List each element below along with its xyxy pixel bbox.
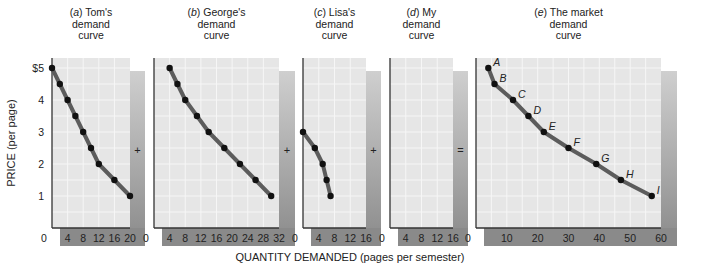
data-point [88,145,94,151]
x-tick: 16 [109,232,121,244]
x-tick: 4 [65,232,71,244]
point-label: F [574,136,581,148]
data-point [111,177,117,183]
chart-canvas: (a) Tom'sdemandcurve048121620+(b) George… [0,0,703,265]
panel-4: (d) Mydemandcurve0481216= [379,6,468,246]
panel-title: (d) My [407,6,438,18]
data-point [182,97,188,103]
x-tick-zero: 0 [379,232,385,244]
x-axis-label: QUANTITY DEMANDED (pages per semester) [235,251,464,263]
data-point [205,129,211,135]
x-tick: 16 [447,232,459,244]
x-tick: 16 [211,232,223,244]
data-point [221,145,227,151]
x-tick: 24 [242,232,254,244]
data-point [127,193,133,199]
panel-title: (c) Lisa's [314,6,356,18]
data-point [252,177,258,183]
data-point [485,65,491,71]
data-point [268,193,274,199]
shade-strip [484,228,677,246]
data-point [319,161,325,167]
shade-bar [366,71,381,246]
panel-1: (a) Tom'sdemandcurve048121620+ [41,6,145,246]
x-tick: 60 [655,232,667,244]
panel-title: (e) The market [534,6,603,18]
x-tick: 8 [182,232,188,244]
data-point [649,193,655,199]
panel-title: curve [556,29,582,41]
data-point [49,65,55,71]
x-tick: 10 [501,232,513,244]
x-tick: 12 [93,232,105,244]
x-tick: 12 [195,232,207,244]
data-point [64,97,70,103]
x-tick-zero: 0 [292,232,298,244]
y-tick: 1 [38,190,44,202]
panel-title: curve [409,29,435,41]
data-point [96,161,102,167]
data-point [72,113,78,119]
x-tick: 16 [360,232,372,244]
data-point [312,145,318,151]
operator-sign: + [370,144,376,156]
panel-3: (c) Lisa'sdemandcurve0481216+ [292,6,381,246]
data-point [541,129,547,135]
shade-bar [453,71,468,246]
data-point [327,193,333,199]
point-label: C [518,88,526,100]
point-label: H [626,168,634,180]
point-label: I [657,184,660,196]
data-point [323,177,329,183]
x-tick-zero: 0 [41,232,47,244]
data-point [166,65,172,71]
panel-title: curve [322,29,348,41]
data-point [237,161,243,167]
operator-sign: + [284,144,290,156]
panel-title: demand [198,18,236,30]
panel-title: demand [316,18,354,30]
x-tick: 32 [273,232,285,244]
point-label: B [500,72,507,84]
data-point [525,113,531,119]
x-tick: 12 [344,232,356,244]
data-point [80,129,86,135]
operator-sign: = [457,144,463,156]
panel-title: curve [78,29,104,41]
panel-title: demand [550,18,588,30]
data-point [565,145,571,151]
operator-sign: + [134,144,140,156]
y-axis-label: PRICE (per page) [5,99,17,186]
y-tick: 4 [38,94,44,106]
x-tick: 8 [419,232,425,244]
y-tick: $5 [32,62,44,74]
x-tick: 4 [403,232,409,244]
data-point [618,177,624,183]
x-tick: 4 [167,232,173,244]
data-point [491,81,497,87]
x-tick: 12 [431,232,443,244]
x-tick: 20 [532,232,544,244]
panel-2: (b) George'sdemandcurve048121620242832+ [143,6,295,246]
data-point [194,113,200,119]
market-demand-figure: (a) Tom'sdemandcurve048121620+(b) George… [0,0,703,265]
shade-bar [661,71,677,246]
point-label: A [492,56,500,68]
x-tick-zero: 0 [465,232,471,244]
x-tick: 28 [258,232,270,244]
x-tick: 40 [593,232,605,244]
y-tick: 3 [38,126,44,138]
x-tick: 20 [124,232,136,244]
x-tick: 30 [563,232,575,244]
panel-title: demand [72,18,110,30]
panel-title: curve [204,29,230,41]
shade-bar [130,71,145,246]
panel-title: (a) Tom's [70,6,113,18]
panel-5: (e) The marketdemandcurve0102030405060AB… [465,6,677,246]
point-label: E [549,120,557,132]
panel-title: (b) George's [187,6,245,18]
data-point [300,129,306,135]
data-point [57,81,63,87]
panel-title: demand [403,18,441,30]
x-tick: 20 [226,232,238,244]
